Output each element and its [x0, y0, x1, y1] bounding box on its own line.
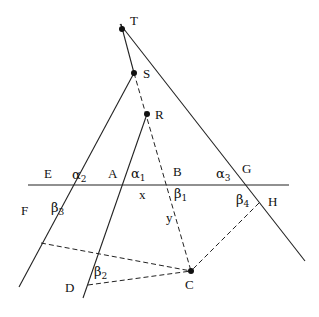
geometry-diagram: T S R C E A B G F D H x y α2 α1 α3 β1 β3… — [0, 0, 319, 317]
line-F-C — [41, 243, 191, 271]
line-T-H — [120, 24, 305, 261]
label-F: F — [21, 203, 28, 218]
point-T — [119, 26, 125, 32]
point-S — [131, 70, 137, 76]
label-C: C — [185, 277, 194, 292]
angle-beta2: β2 — [94, 264, 107, 281]
angle-beta1: β1 — [174, 186, 187, 203]
label-y: y — [166, 210, 173, 225]
line-S-R-C — [134, 73, 191, 271]
label-E: E — [44, 166, 52, 181]
angle-beta3: β3 — [51, 200, 65, 217]
line-R-D — [83, 114, 147, 298]
label-D: D — [65, 280, 74, 295]
label-R: R — [155, 107, 164, 122]
label-B: B — [173, 164, 182, 179]
label-G: G — [242, 161, 251, 176]
point-R — [144, 111, 150, 117]
angle-alpha1: α1 — [131, 166, 146, 183]
line-H-C — [191, 203, 259, 271]
label-x: x — [139, 187, 146, 202]
label-A: A — [108, 166, 118, 181]
label-S: S — [143, 66, 150, 81]
label-H: H — [268, 194, 277, 209]
label-T: T — [130, 13, 138, 28]
angle-beta4: β4 — [236, 192, 250, 209]
angle-alpha3: α3 — [216, 166, 231, 183]
point-C — [188, 268, 194, 274]
angle-alpha2: α2 — [72, 167, 87, 184]
